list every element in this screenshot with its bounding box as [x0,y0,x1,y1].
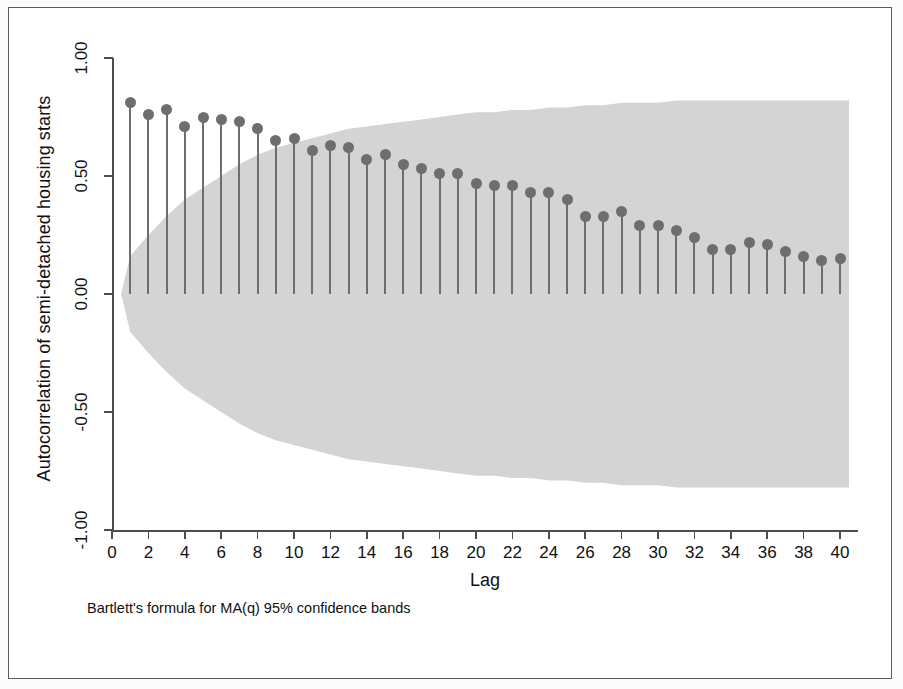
acf-marker [307,145,318,156]
acf-stem [420,169,422,294]
acf-stem [657,226,659,294]
acf-stem [766,244,768,294]
x-axis-tick [330,530,332,539]
x-axis-tick-label: 30 [641,543,675,563]
acf-stem [166,110,168,294]
acf-stem [602,216,604,294]
x-axis-tick [257,530,259,539]
x-axis-tick [621,530,623,539]
x-axis-tick-label: 40 [823,543,857,563]
acf-marker [616,206,627,217]
acf-stem [184,126,186,294]
acf-marker [762,239,773,250]
acf-stem [675,230,677,294]
x-axis-tick [475,530,477,539]
y-axis-tick-label: -0.50 [52,402,112,422]
acf-marker [289,133,300,144]
acf-stem [712,249,714,294]
x-axis-tick-label: 38 [787,543,821,563]
x-axis-tick-label: 34 [714,543,748,563]
x-axis-tick-label: 16 [386,543,420,563]
acf-stem [147,115,149,294]
confidence-band-area [121,101,849,488]
x-axis-tick-label: 24 [532,543,566,563]
x-axis-tick-label: 12 [313,543,347,563]
x-axis-tick-label: 4 [168,543,202,563]
x-axis-tick-label: 18 [423,543,457,563]
x-axis-tick [293,530,295,539]
x-axis-tick-label: 36 [750,543,784,563]
x-axis-tick-label: 8 [241,543,275,563]
x-axis-tick [803,530,805,539]
x-axis-tick [512,530,514,539]
x-axis-tick [730,530,732,539]
acf-marker [671,225,682,236]
x-axis-tick-label: 26 [568,543,602,563]
y-axis-tick-label: 0.50 [52,166,112,186]
acf-marker [798,251,809,262]
acf-stem [493,185,495,294]
x-axis-tick [694,530,696,539]
acf-stem [530,193,532,294]
acf-stem [311,150,313,294]
acf-marker [489,180,500,191]
x-axis-line [112,530,858,532]
acf-stem [584,216,586,294]
confidence-band-note: Bartlett's formula for MA(q) 95% confide… [87,600,411,616]
x-axis-tick-label: 32 [677,543,711,563]
acf-marker [325,140,336,151]
x-axis-tick [439,530,441,539]
x-axis-tick [584,530,586,539]
acf-marker [744,237,755,248]
x-axis-tick-label: 0 [95,543,129,563]
acf-stem [129,103,131,294]
plot-area [112,58,858,530]
acf-stem [748,242,750,294]
acf-marker [143,109,154,120]
acf-marker [398,159,409,170]
acf-stem [639,226,641,294]
acf-stem [366,159,368,294]
acf-marker [380,149,391,160]
x-axis-tick-label: 28 [605,543,639,563]
acf-stem [511,185,513,294]
acf-stem [803,256,805,294]
acf-stem [566,200,568,294]
acf-marker [653,220,664,231]
acf-stem [329,145,331,294]
x-axis-tick [839,530,841,539]
acf-marker [198,112,209,123]
x-axis-tick-label: 22 [495,543,529,563]
acf-marker [835,253,846,264]
acf-stem [402,164,404,294]
x-axis-tick-label: 14 [350,543,384,563]
acf-chart: Autocorrelation of semi-detached housing… [9,8,893,680]
acf-stem [293,138,295,294]
acf-stem [475,183,477,294]
x-axis-tick [402,530,404,539]
acf-marker [216,114,227,125]
acf-marker [725,244,736,255]
acf-stem [257,129,259,294]
x-axis-tick-label: 2 [131,543,165,563]
acf-marker [707,244,718,255]
acf-stem [202,117,204,294]
acf-marker [562,194,573,205]
acf-marker [507,180,518,191]
x-axis-tick-label: 20 [459,543,493,563]
confidence-band [112,58,858,530]
acf-stem [220,119,222,294]
acf-marker [689,232,700,243]
x-axis-title: Lag [112,570,858,591]
x-axis-tick [548,530,550,539]
y-axis-tick-label: 1.00 [52,48,112,68]
acf-stem [784,252,786,294]
acf-stem [621,211,623,294]
x-axis-tick [220,530,222,539]
acf-stem [238,122,240,294]
y-axis-tick-label: -1.00 [52,520,112,540]
x-axis-tick [366,530,368,539]
x-axis-tick-label: 10 [277,543,311,563]
acf-stem [348,148,350,294]
x-axis-tick-label: 6 [204,543,238,563]
